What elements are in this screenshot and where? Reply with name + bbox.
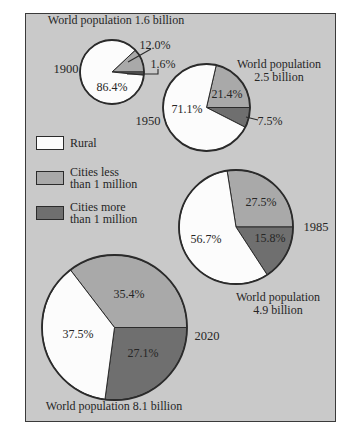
year-label-1950: 1950 xyxy=(136,115,161,128)
pie-1985-title-line2: 4.9 billion xyxy=(236,304,320,317)
pie-1985-cities-less-pct: 27.5% xyxy=(246,196,277,209)
pie-2020-rural-pct: 37.5% xyxy=(63,328,94,341)
legend-label-cities-more: Cities more than 1 million xyxy=(70,200,137,225)
pie-1900 xyxy=(77,37,147,107)
pie-1985 xyxy=(176,167,296,287)
legend-label-cities-less: Cities less than 1 million xyxy=(70,165,137,190)
pie-1900-cities-more-pct: 1.6% xyxy=(151,58,176,71)
year-label-1985: 1985 xyxy=(304,221,329,234)
year-label-2020: 2020 xyxy=(195,330,220,343)
pie-1950-title-line2: 2.5 billion xyxy=(237,71,321,84)
pie-2020-title: World population 8.1 billion xyxy=(46,400,182,413)
legend-swatch-cities-more xyxy=(36,206,64,220)
pie-2020-cities-more-pct: 27.1% xyxy=(128,347,159,360)
pie-1985-cities-more-pct: 15.8% xyxy=(255,232,286,245)
legend-label-rural: Rural xyxy=(70,137,97,150)
pie-1950-cities-more-pct: 7.5% xyxy=(258,115,283,128)
pie-1900-title: World population 1.6 billion xyxy=(48,14,184,27)
pie-2020 xyxy=(39,252,190,403)
pie-1900-rural-pct: 86.4% xyxy=(97,81,128,94)
pie-1950-rural-pct: 71.1% xyxy=(172,103,203,116)
pie-1985-rural-pct: 56.7% xyxy=(191,233,222,246)
legend-label-cities-less-line2: than 1 million xyxy=(70,178,137,191)
pie-1950-title: World population 2.5 billion xyxy=(237,58,321,84)
pie-2020-cities-less-pct: 35.4% xyxy=(114,288,145,301)
year-label-1900: 1900 xyxy=(54,63,79,76)
legend-swatch-rural xyxy=(36,136,64,150)
pie-1985-title: World population 4.9 billion xyxy=(236,291,320,317)
legend-label-cities-more-line1: Cities more xyxy=(70,200,137,213)
pie-1900-cities-less-pct: 12.0% xyxy=(140,39,171,52)
legend-label-cities-more-line2: than 1 million xyxy=(70,213,137,226)
legend-label-cities-less-line1: Cities less xyxy=(70,165,137,178)
urbanization-pie-figure: World population 1.6 billion 1900 86.4% … xyxy=(0,0,349,442)
pie-1950-cities-less-pct: 21.4% xyxy=(212,88,243,101)
legend-swatch-cities-less xyxy=(36,171,64,185)
